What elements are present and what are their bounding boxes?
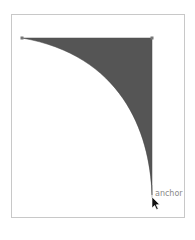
anchor-hover-label: anchor	[155, 189, 183, 199]
curved-shape[interactable]	[22, 38, 152, 195]
anchor-point-top-left[interactable]	[21, 37, 24, 40]
anchor-point-top-right[interactable]	[151, 37, 154, 40]
